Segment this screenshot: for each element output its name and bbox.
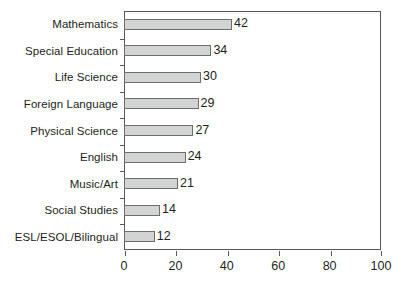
category-label: Foreign Language — [0, 98, 118, 110]
x-axis-tick — [125, 251, 126, 256]
category-label: Life Science — [0, 71, 118, 83]
category-label: Mathematics — [0, 18, 118, 30]
x-axis-tick — [228, 251, 229, 256]
category-label: ESL/ESOL/Bilingual — [0, 231, 118, 243]
category-label: Music/Art — [0, 178, 118, 190]
value-labels-layer: 423430292724211412 — [124, 11, 409, 250]
bar-chart: MathematicsSpecial EducationLife Science… — [0, 0, 409, 296]
category-label: Physical Science — [0, 125, 118, 137]
bar-value-label: 14 — [162, 203, 176, 216]
bar-value-label: 21 — [180, 177, 194, 190]
bar-value-label: 27 — [195, 124, 209, 137]
x-axis-tick-labels: 020406080100 — [124, 259, 381, 279]
x-axis-tick — [176, 251, 177, 256]
category-label: Social Studies — [0, 204, 118, 216]
x-axis-tick-label: 0 — [121, 259, 128, 273]
bar-value-label: 29 — [201, 97, 215, 110]
x-axis-tick-label: 40 — [220, 259, 234, 273]
x-axis-tick-label: 20 — [168, 259, 182, 273]
x-axis-tick — [331, 251, 332, 256]
bar-value-label: 34 — [213, 44, 227, 57]
bar-value-label: 30 — [203, 70, 217, 83]
x-axis-tick-label: 60 — [271, 259, 285, 273]
bar-value-label: 24 — [188, 150, 202, 163]
category-label: English — [0, 151, 118, 163]
x-axis-tick — [381, 251, 382, 256]
category-axis: MathematicsSpecial EducationLife Science… — [0, 11, 118, 250]
x-axis-tick-label: 100 — [371, 259, 392, 273]
x-axis-tick — [279, 251, 280, 256]
x-axis-tick-label: 80 — [323, 259, 337, 273]
bar-value-label: 42 — [234, 17, 248, 30]
bar-value-label: 12 — [157, 230, 171, 243]
category-label: Special Education — [0, 45, 118, 57]
